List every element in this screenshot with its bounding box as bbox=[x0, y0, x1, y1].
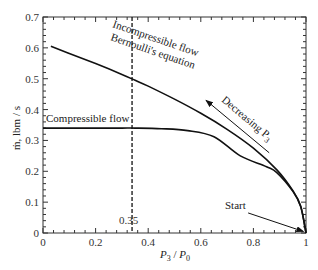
y-axis-label: ṁ, lbm / s bbox=[10, 106, 22, 150]
x-tick-label: 0 bbox=[40, 236, 46, 248]
start-arrow bbox=[248, 213, 303, 232]
x-tick-label: 1 bbox=[303, 236, 309, 248]
x-tick-label: 0.2 bbox=[89, 236, 103, 248]
compressible-curve bbox=[43, 128, 306, 233]
y-tick-label: 0 bbox=[34, 227, 40, 239]
compressible-label: Compressible flow bbox=[46, 112, 129, 124]
y-tick-label: 0.7 bbox=[25, 11, 39, 23]
annotations: Incompressible flow Bernoulli's equation… bbox=[10, 18, 275, 263]
x-tick-label: 0.8 bbox=[247, 236, 261, 248]
y-tick-label: 0.5 bbox=[25, 73, 39, 85]
x-tick-label: 0.6 bbox=[194, 236, 208, 248]
y-tick-label: 0.3 bbox=[25, 134, 39, 146]
x-axis-label: P3 / P0 bbox=[159, 248, 190, 263]
x-tick-label: 0.4 bbox=[141, 236, 155, 248]
vline-value-label: 0.35 bbox=[119, 214, 139, 226]
decreasing-p3-label: Decreasing P3 bbox=[218, 93, 275, 145]
y-tick-label: 0.2 bbox=[25, 165, 39, 177]
mass-flow-chart: 00.20.40.60.8100.10.20.30.40.50.60.7 Inc… bbox=[0, 0, 318, 270]
y-tick-label: 0.6 bbox=[25, 42, 39, 54]
y-tick-label: 0.4 bbox=[25, 104, 39, 116]
y-tick-label: 0.1 bbox=[25, 196, 39, 208]
start-label: Start bbox=[225, 199, 246, 211]
